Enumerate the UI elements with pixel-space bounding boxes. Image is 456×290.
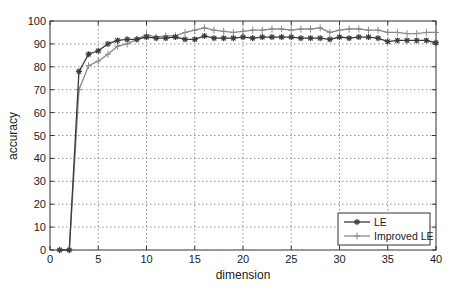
x-tick-label: 25 [285,253,297,265]
y-tick-label: 100 [28,15,46,27]
y-axis-label: accuracy [6,112,20,160]
x-tick-label: 5 [95,253,101,265]
x-tick-label: 0 [47,253,53,265]
x-tick-label: 40 [430,253,442,265]
y-tick-label: 20 [34,198,46,210]
star-marker-icon [354,219,360,225]
x-tick-label: 20 [237,253,249,265]
y-tick-label: 0 [40,244,46,256]
legend-improved-label: Improved LE [374,230,434,242]
x-tick-label: 10 [140,253,152,265]
line-chart: 05101520253035400102030405060708090100 d… [0,0,456,290]
y-tick-label: 80 [34,61,46,73]
legend-le-label: LE [374,216,387,228]
x-tick-label: 35 [382,253,394,265]
y-tick-label: 50 [34,130,46,142]
y-tick-label: 90 [34,38,46,50]
x-tick-label: 30 [333,253,345,265]
y-tick-label: 30 [34,175,46,187]
y-tick-label: 40 [34,152,46,164]
y-tick-label: 60 [34,107,46,119]
x-tick-label: 15 [189,253,201,265]
y-tick-label: 10 [34,221,46,233]
legend: LE Improved LE [338,213,434,245]
y-tick-label: 70 [34,84,46,96]
x-axis-label: dimension [216,268,271,282]
